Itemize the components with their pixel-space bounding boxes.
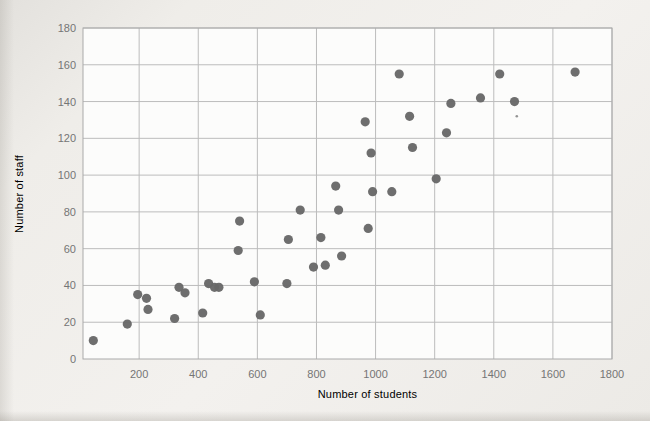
scatter-chart: 2004006008001000120014001600180002040608… [0,0,650,421]
page-background: 2004006008001000120014001600180002040608… [0,0,650,421]
data-point-7 [180,288,189,297]
data-point-25 [361,117,370,126]
y-tick-label-80: 80 [64,206,76,218]
data-point-19 [309,263,318,272]
data-point-15 [256,310,265,319]
chart-canvas: 2004006008001000120014001600180002040608… [0,0,650,421]
data-point-12 [234,246,243,255]
x-tick-label-200: 200 [130,368,148,380]
y-tick-label-0: 0 [70,353,76,365]
y-tick-label-100: 100 [58,169,76,181]
data-point-0 [89,336,98,345]
data-point-36 [476,93,485,102]
y-tick-label-140: 140 [58,96,76,108]
artifact-speck [516,115,519,118]
data-point-17 [284,235,293,244]
data-point-23 [334,206,343,215]
data-point-29 [387,187,396,196]
y-axis-title: Number of staff [13,44,25,344]
x-tick-label-1400: 1400 [482,368,506,380]
y-tick-label-20: 20 [64,316,76,328]
x-axis-title-row: Number of students [0,388,650,400]
data-point-39 [571,68,580,77]
y-tick-label-120: 120 [58,132,76,144]
x-tick-label-800: 800 [307,368,325,380]
plot-area [83,28,612,359]
data-point-16 [282,279,291,288]
y-tick-label-60: 60 [64,243,76,255]
y-tick-label-160: 160 [58,59,76,71]
data-point-3 [142,294,151,303]
data-point-37 [495,69,504,78]
data-point-28 [368,187,377,196]
data-point-21 [321,261,330,270]
x-tick-label-400: 400 [189,368,207,380]
data-point-27 [367,148,376,157]
data-point-35 [446,99,455,108]
data-point-13 [235,217,244,226]
x-axis-title: Number of students [318,388,418,400]
data-point-31 [405,112,414,121]
data-point-1 [123,320,132,329]
data-point-34 [442,128,451,137]
x-tick-label-600: 600 [248,368,266,380]
data-point-32 [408,143,417,152]
x-tick-label-1000: 1000 [363,368,387,380]
data-point-38 [510,97,519,106]
x-tick-label-1800: 1800 [600,368,624,380]
x-tick-label-1200: 1200 [422,368,446,380]
data-point-24 [337,251,346,260]
data-point-11 [214,283,223,292]
data-point-2 [133,290,142,299]
data-point-8 [198,308,207,317]
data-point-4 [143,305,152,314]
x-tick-label-1600: 1600 [541,368,565,380]
data-point-26 [364,224,373,233]
data-point-20 [316,233,325,242]
data-point-18 [296,206,305,215]
y-tick-label-180: 180 [58,22,76,34]
data-point-22 [331,182,340,191]
data-point-33 [432,174,441,183]
data-point-30 [395,69,404,78]
y-tick-label-40: 40 [64,279,76,291]
data-point-14 [250,277,259,286]
data-point-5 [170,314,179,323]
